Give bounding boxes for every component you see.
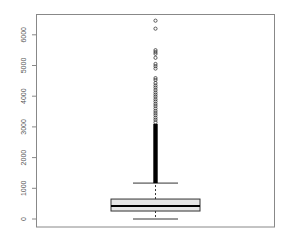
dense-outliers [153,124,157,183]
outlier-point [154,56,157,59]
y-tick-label: 5000 [20,58,27,74]
outlier-point [154,19,157,22]
y-tick-label: 4000 [20,88,27,104]
outlier-point [154,27,157,30]
y-tick-label: 0 [20,217,27,221]
y-tick-label: 6000 [20,27,27,43]
y-tick-label: 1000 [20,180,27,196]
y-tick-label: 2000 [20,150,27,166]
plot-area [111,19,200,219]
iqr-box [111,199,200,211]
y-axis: 0100020003000400050006000 [20,27,37,221]
boxplot-chart: 0100020003000400050006000 [0,0,288,239]
y-tick-label: 3000 [20,119,27,135]
